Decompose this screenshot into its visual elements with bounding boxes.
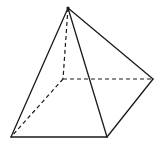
visible-edges: [11, 8, 153, 137]
pyramid-svg: [0, 0, 165, 143]
visible-edge-apex-right: [68, 8, 153, 79]
hidden-edge-back_left_hidden-front_left: [11, 79, 63, 137]
visible-edge-apex-front_right: [68, 8, 107, 137]
visible-edge-front_right-right: [107, 79, 153, 137]
apex-point: [66, 6, 69, 9]
visible-edge-apex-front_left: [11, 8, 68, 137]
hidden-edges: [11, 8, 153, 137]
pyramid-diagram: [0, 0, 165, 143]
